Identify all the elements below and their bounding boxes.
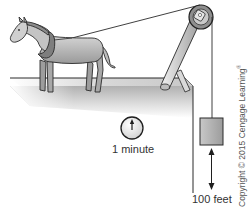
registered-mark: ® (236, 65, 242, 69)
copyright-text: Copyright © 2015 Cengage Learning (237, 68, 247, 207)
rope-horizontal (72, 5, 200, 38)
weight-block-icon (200, 118, 223, 145)
copyright-notice: Copyright © 2015 Cengage Learning® (236, 65, 247, 207)
distance-label: 100 feet (192, 193, 232, 205)
double-arrow-icon (209, 148, 215, 190)
clock-icon (121, 117, 143, 139)
clock-label: 1 minute (112, 143, 154, 155)
horsepower-diagram (0, 0, 250, 213)
platform (10, 78, 193, 193)
pulley-wheel-icon (189, 5, 213, 29)
